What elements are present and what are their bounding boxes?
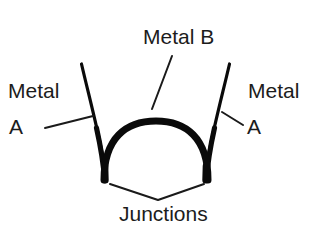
metal-b-arc	[104, 121, 208, 180]
left-metal-a-leader-line	[45, 116, 93, 128]
thermocouple-diagram: Metal B Metal A Metal A Junctions	[0, 0, 312, 231]
junctions-label: Junctions	[119, 202, 208, 225]
metal-b-leader-line	[152, 56, 172, 109]
diagram-canvas: Metal B Metal A Metal A Junctions	[0, 0, 312, 231]
left-metal-a-label: A	[9, 115, 23, 138]
junctions-leader-line	[110, 184, 204, 200]
right-metal-a-label: A	[247, 115, 261, 138]
left-metal-label: Metal	[8, 79, 59, 102]
right-metal-a-leader-line	[222, 112, 243, 125]
metal-b-label: Metal B	[143, 25, 214, 48]
right-metal-label: Metal	[248, 79, 299, 102]
